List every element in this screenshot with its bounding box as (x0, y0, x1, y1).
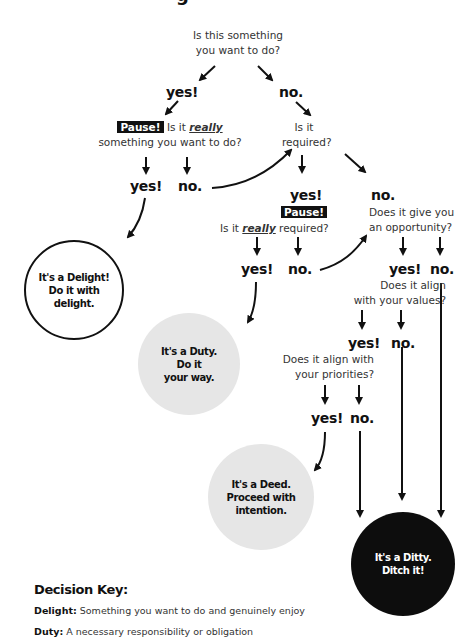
question-values: Does it align with your values? (336, 278, 446, 308)
outcome-text: It's a Deed. (226, 478, 295, 491)
key-term: Duty: (34, 626, 63, 637)
outcome-delight: It's a Delight! Do it with delight. (24, 240, 124, 340)
question-required: Is it required? (282, 120, 326, 150)
outcome-text: your way. (161, 371, 217, 384)
key-item-duty: Duty: A necessary responsibility or obli… (34, 626, 253, 637)
question-line: Does it align with (280, 352, 374, 367)
pause-badge: Pause! (117, 121, 163, 133)
answer-yes-want: yes! (166, 84, 198, 100)
question-line: Does it align (336, 278, 446, 293)
question-line: your priorities? (280, 367, 374, 382)
question-text: Is it (167, 121, 186, 133)
answer-yes-values: yes! (348, 335, 380, 351)
answer-yes-opportunity: yes! (389, 261, 421, 277)
question-priorities: Does it align with your priorities? (280, 352, 374, 382)
key-definition: Something you want to do and genuinely e… (80, 605, 305, 616)
answer-no-opportunity: no. (430, 261, 454, 277)
question-text: required? (279, 222, 329, 234)
question-text: Is it (220, 222, 239, 234)
question-really-want: Pause! Is it really something you want t… (95, 120, 245, 150)
outcome-text: It's a Delight! (39, 271, 110, 284)
emphasis-text: really (242, 222, 275, 234)
question-line: Is it (282, 120, 326, 135)
key-term: Delight: (34, 605, 77, 616)
outcome-text: Ditch it! (375, 564, 432, 577)
answer-yes-really-required: yes! (241, 261, 273, 277)
outcome-text: Do it with (39, 284, 110, 297)
question-line: an opportunity? (369, 220, 454, 235)
answer-yes-really-want: yes! (130, 178, 162, 194)
question-want-to-do: Is this something you want to do? (168, 28, 308, 58)
answer-no-priorities: no. (350, 410, 374, 426)
answer-no-required: no. (371, 187, 395, 203)
outcome-text: Proceed with (226, 491, 295, 504)
outcome-text: delight. (39, 297, 110, 310)
outcome-text: It's a Duty. (161, 345, 217, 358)
question-line: Pause! Is it really (95, 120, 245, 135)
key-item-delight: Delight: Something you want to do and ge… (34, 605, 305, 616)
question-line: you want to do? (168, 43, 308, 58)
outcome-text: intention. (226, 504, 295, 517)
question-opportunity: Does it give you an opportunity? (369, 205, 454, 235)
pause-really-required: Pause! (281, 205, 327, 220)
key-definition: A necessary responsibility or obligation (66, 626, 253, 637)
answer-yes-priorities: yes! (311, 410, 343, 426)
question-really-required: Is it really required? (220, 221, 329, 236)
pause-badge: Pause! (281, 206, 327, 218)
outcome-text: It's a Ditty. (375, 551, 432, 564)
outcome-text: Do it (161, 358, 217, 371)
decision-key-title: Decision Key: (34, 582, 128, 597)
answer-yes-required: yes! (290, 187, 322, 203)
outcome-duty: It's a Duty. Do it your way. (138, 313, 240, 415)
outcome-ditty: It's a Ditty. Ditch it! (351, 512, 455, 616)
question-line: with your values? (336, 293, 446, 308)
answer-no-want: no. (279, 84, 303, 100)
question-line: required? (282, 135, 326, 150)
question-line: something you want to do? (95, 135, 245, 150)
answer-no-really-want: no. (178, 178, 202, 194)
answer-no-values: no. (391, 335, 415, 351)
answer-no-really-required: no. (288, 261, 312, 277)
outcome-deed: It's a Deed. Proceed with intention. (208, 444, 314, 550)
emphasis-text: really (189, 121, 222, 133)
question-line: Does it give you (369, 205, 454, 220)
question-line: Is this something (168, 28, 308, 43)
